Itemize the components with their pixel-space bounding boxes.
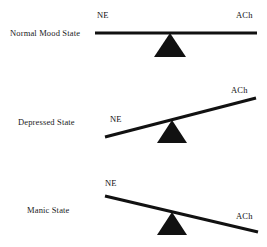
balance-scale-normal [0,0,267,82]
neurotransmitter-balance-figure: Normal Mood State NE ACh Depressed State… [0,0,267,247]
balance-scale-depressed [0,82,267,164]
fulcrum-normal [154,33,186,57]
panel-normal-mood-state: Normal Mood State NE ACh [0,0,267,82]
beam-depressed [105,98,256,137]
panel-manic-state: Manic State NE ACh [0,164,267,246]
panel-depressed-state: Depressed State NE ACh [0,82,267,164]
balance-scale-manic [0,164,267,247]
